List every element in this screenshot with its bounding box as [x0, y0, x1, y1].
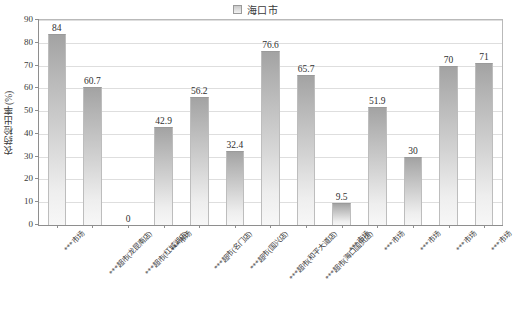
y-axis-tick-label: 40 — [24, 128, 38, 138]
bar-slot: 65.7 — [288, 20, 324, 225]
y-axis-tick-label: 50 — [24, 105, 38, 115]
bar-value-label: 65.7 — [288, 64, 324, 74]
bar[interactable] — [261, 51, 280, 225]
x-axis-label-cell: ***市场 — [431, 228, 467, 313]
y-axis-tick-label: 70 — [24, 60, 38, 70]
legend-label: 海口市 — [247, 2, 279, 17]
x-axis-label-cell: ***超市(海口国贸店) — [288, 228, 324, 313]
y-axis-tick-label: 90 — [24, 14, 38, 24]
y-axis-tick: 0 — [0, 218, 38, 230]
bar-value-label: 84 — [39, 23, 75, 33]
bar[interactable] — [368, 107, 387, 225]
bar-slot: 71 — [466, 20, 502, 225]
bar-value-label: 71 — [466, 52, 502, 62]
x-axis-label-cell: ***市场 — [395, 228, 431, 313]
y-axis-tick: 90 — [0, 13, 38, 25]
y-axis-tick-label: 30 — [24, 151, 38, 161]
bar-slot: 42.9 — [146, 20, 182, 225]
y-axis-tick: 70 — [0, 59, 38, 71]
y-axis-tick: 20 — [0, 172, 38, 184]
y-axis-tick: 60 — [0, 81, 38, 93]
bar-value-label: 60.7 — [75, 76, 111, 86]
bar-value-label: 30 — [395, 146, 431, 156]
bar[interactable] — [404, 157, 423, 225]
bar-slot: 30 — [395, 20, 431, 225]
bar[interactable] — [475, 63, 494, 225]
bar-value-label: 9.5 — [324, 192, 360, 202]
y-axis-tick-label: 20 — [24, 173, 38, 183]
bar-value-label: 51.9 — [359, 96, 395, 106]
y-axis-tick-label: 0 — [29, 219, 39, 229]
y-axis-tick: 30 — [0, 150, 38, 162]
x-axis-label-cell: ***市场 — [466, 228, 502, 313]
bar-slot: 84 — [39, 20, 75, 225]
bar-value-label: 0 — [110, 214, 146, 224]
y-axis-tick: 40 — [0, 127, 38, 139]
bar-slot: 70 — [431, 20, 467, 225]
bar-series: 8460.7042.956.232.476.665.79.551.9307071 — [39, 20, 502, 225]
x-axis-label-cell: ***市场 — [39, 228, 75, 313]
bar[interactable] — [332, 203, 351, 225]
bar-value-label: 42.9 — [146, 116, 182, 126]
bar-slot: 9.5 — [324, 20, 360, 225]
x-axis-label-cell: ***市场 — [324, 228, 360, 313]
x-axis-label-cell: ***超市(龙昆南店) — [75, 228, 111, 313]
y-axis-ticks: 9080706050403020100 — [0, 19, 38, 226]
x-axis-labels: ***市场***超市(龙昆南店)***超市(红城湖店)***市场***超市(名门… — [39, 228, 502, 313]
bar-value-label: 70 — [431, 55, 467, 65]
x-axis-label-cell: ***超市(名门店) — [181, 228, 217, 313]
bar-value-label: 76.6 — [253, 40, 289, 50]
x-axis-label-cell: ***超市(和平大道店) — [253, 228, 289, 313]
y-axis-tick-label: 10 — [24, 196, 38, 206]
bar[interactable] — [226, 151, 245, 225]
y-axis-tick: 80 — [0, 36, 38, 48]
x-axis-label-cell: ***超市(红城湖店) — [110, 228, 146, 313]
x-axis-label-cell: ***市场 — [359, 228, 395, 313]
bar[interactable] — [83, 87, 102, 225]
x-axis-label-cell: ***市场 — [146, 228, 182, 313]
bar-slot: 60.7 — [75, 20, 111, 225]
y-axis-tick-label: 60 — [24, 82, 38, 92]
bar-slot: 0 — [110, 20, 146, 225]
bar[interactable] — [190, 97, 209, 225]
bar-slot: 56.2 — [181, 20, 217, 225]
bar-value-label: 56.2 — [181, 86, 217, 96]
bar-slot: 51.9 — [359, 20, 395, 225]
y-axis-tick: 10 — [0, 195, 38, 207]
bar[interactable] — [297, 75, 316, 225]
bar[interactable] — [439, 66, 458, 225]
x-axis-label-cell: ***超市(国兴店) — [217, 228, 253, 313]
x-axis-label: ***市场 — [490, 230, 513, 253]
y-axis-tick: 50 — [0, 104, 38, 116]
y-axis-tick-label: 80 — [24, 37, 38, 47]
bar[interactable] — [48, 34, 67, 225]
bar-slot: 32.4 — [217, 20, 253, 225]
bar-value-label: 32.4 — [217, 140, 253, 150]
bar[interactable] — [154, 127, 173, 225]
legend-square-icon — [233, 5, 242, 14]
bar-slot: 76.6 — [253, 20, 289, 225]
chart-legend: 海口市 — [0, 2, 511, 17]
